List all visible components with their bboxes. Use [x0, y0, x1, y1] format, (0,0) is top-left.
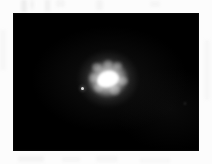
margin-smudge	[0, 30, 6, 70]
background-speck	[184, 102, 186, 105]
primary-source-fringe	[89, 74, 97, 82]
image-canvas	[0, 0, 212, 164]
margin-smudge	[140, 158, 170, 163]
margin-smudge	[204, 40, 210, 100]
margin-smudge	[56, 0, 65, 7]
margin-smudge	[45, 0, 50, 11]
margin-smudge	[150, 1, 160, 7]
margin-smudge	[30, 0, 34, 9]
primary-source-fringe	[104, 60, 112, 67]
primary-source-fringe	[114, 62, 122, 69]
margin-smudge	[62, 157, 80, 162]
sky-field	[13, 13, 199, 151]
margin-smudge	[96, 0, 103, 10]
primary-source-fringe	[118, 77, 128, 85]
margin-smudge	[96, 156, 118, 162]
primary-source-fringe	[110, 86, 120, 95]
primary-source-fringe	[92, 63, 101, 71]
margin-smudge	[18, 156, 44, 162]
companion-point	[81, 87, 84, 90]
margin-smudge	[21, 0, 27, 12]
